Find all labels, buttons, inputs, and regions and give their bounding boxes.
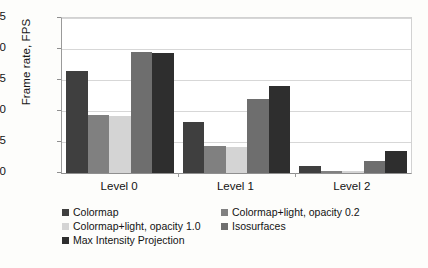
legend-swatch-icon [62, 223, 69, 230]
x-axis-label-0: Level 0 [61, 180, 177, 192]
bar [364, 161, 386, 173]
legend-row: Colormap+light, opacity 1.0Isosurfaces [62, 220, 412, 234]
y-tick-label-0: 0 [0, 166, 6, 178]
legend-item[interactable]: Colormap+light, opacity 0.2 [221, 206, 360, 218]
bar [269, 86, 291, 173]
y-tick-label-5: 5 [0, 135, 6, 147]
bar [131, 52, 153, 173]
plot-area [61, 17, 412, 174]
chart-legend: ColormapColormap+light, opacity 0.2Color… [62, 206, 412, 248]
category-separator [178, 173, 179, 177]
legend-label: Max Intensity Projection [73, 234, 184, 246]
legend-label: Colormap+light, opacity 0.2 [232, 206, 360, 218]
bar [299, 166, 321, 173]
bar [152, 53, 174, 173]
bars-layer [62, 18, 411, 173]
legend-swatch-icon [221, 223, 228, 230]
y-tick-label-20: 20 [0, 42, 6, 54]
x-axis-label-2: Level 2 [294, 180, 410, 192]
legend-label: Isosurfaces [232, 220, 286, 232]
y-tick-label-10: 10 [0, 104, 6, 116]
bar [66, 71, 88, 173]
legend-item[interactable]: Colormap [62, 206, 221, 218]
y-tick-label-25: 25 [0, 11, 6, 23]
legend-swatch-icon [62, 209, 69, 216]
legend-label: Colormap+light, opacity 1.0 [73, 220, 201, 232]
legend-label: Colormap [73, 206, 119, 218]
category-separator [295, 173, 296, 177]
bar [88, 115, 110, 173]
y-axis-title: Frame rate, FPS [20, 0, 32, 132]
bar [342, 171, 364, 173]
legend-swatch-icon [62, 237, 69, 244]
x-axis-label-1: Level 1 [177, 180, 293, 192]
legend-row: Max Intensity Projection [62, 234, 412, 248]
legend-item[interactable]: Max Intensity Projection [62, 234, 184, 246]
legend-swatch-icon [221, 209, 228, 216]
legend-item[interactable]: Colormap+light, opacity 1.0 [62, 220, 221, 232]
bar [385, 151, 407, 173]
bar [247, 99, 269, 173]
y-tick-label-15: 15 [0, 73, 6, 85]
bar [321, 171, 343, 173]
bar [204, 146, 226, 173]
bar-chart-figure: Frame rate, FPS 0510152025 Level 0Level … [0, 0, 428, 268]
legend-item[interactable]: Isosurfaces [221, 220, 286, 232]
bar [226, 147, 248, 173]
legend-row: ColormapColormap+light, opacity 0.2 [62, 206, 412, 220]
bar [109, 116, 131, 173]
bar [183, 122, 205, 173]
